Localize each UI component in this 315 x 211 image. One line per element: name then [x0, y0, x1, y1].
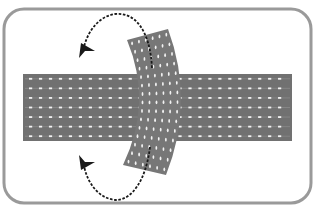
strip-dot [167, 128, 169, 132]
strip-dot [157, 55, 159, 59]
strip-dot [135, 161, 137, 165]
arrowhead-icon [79, 43, 95, 58]
strip-dot [155, 146, 157, 150]
band-dash [79, 116, 82, 118]
band-dash [119, 116, 122, 118]
band-dash [29, 107, 32, 109]
band-dash [188, 126, 191, 128]
strip-dot [156, 100, 158, 104]
band-dash [218, 87, 221, 89]
band-dash [188, 78, 191, 80]
band-dash [79, 87, 82, 89]
band-dash [79, 78, 82, 80]
band-dash [248, 87, 251, 89]
strip-dot [141, 84, 143, 88]
band-dash [258, 116, 261, 118]
band-dash [39, 78, 42, 80]
band-dash [99, 135, 102, 137]
band-dash [208, 126, 211, 128]
band-dash [49, 135, 52, 137]
strip-dot [155, 45, 157, 49]
band-dash [109, 78, 112, 80]
band-dash [188, 135, 191, 137]
strip-dot [137, 58, 139, 62]
strip-dot [148, 83, 150, 87]
strip-dot [139, 126, 141, 130]
strip-dot [142, 163, 144, 167]
strip-dot [147, 118, 149, 122]
strip-dot [170, 148, 172, 152]
band-dash [198, 107, 201, 109]
band-dash [89, 107, 92, 109]
band-dash [198, 87, 201, 89]
band-dash [228, 135, 231, 137]
band-dash [188, 107, 191, 109]
band-dash [208, 135, 211, 137]
band-dash [29, 116, 32, 118]
band-dash [188, 87, 191, 89]
strip-dot [170, 100, 172, 104]
strip-dot [146, 127, 148, 131]
strip-dot [162, 82, 164, 86]
band-dash [278, 97, 281, 99]
band-dash [258, 135, 261, 137]
strip-dot [173, 62, 175, 66]
diagram-svg [0, 0, 315, 211]
strip-dot [163, 91, 165, 95]
band-dash [109, 116, 112, 118]
band-dash [208, 107, 211, 109]
strip-dot [168, 119, 170, 123]
band-dash [99, 78, 102, 80]
strip-dot [170, 91, 172, 95]
band-dash [228, 97, 231, 99]
band-dash [238, 78, 241, 80]
band-dash [29, 78, 32, 80]
band-dash [238, 126, 241, 128]
band-dash [69, 97, 72, 99]
strip-dot [162, 44, 164, 48]
band-dash [89, 97, 92, 99]
strip-dot [137, 134, 139, 138]
band-dash [49, 97, 52, 99]
band-dash [69, 126, 72, 128]
band-dash [278, 135, 281, 137]
band-dash [69, 116, 72, 118]
band-dash [29, 87, 32, 89]
band-dash [228, 116, 231, 118]
band-dash [248, 126, 251, 128]
band-dash [208, 78, 211, 80]
strip-dot [159, 35, 161, 39]
band-dash [278, 78, 281, 80]
strip-dot [159, 64, 161, 68]
band-dash [129, 126, 132, 128]
band-dash [258, 78, 261, 80]
band-dash [99, 97, 102, 99]
band-dash [119, 126, 122, 128]
strip-dot [163, 167, 165, 171]
strip-dot [172, 139, 174, 143]
band-dash [129, 97, 132, 99]
band-dash [69, 78, 72, 80]
band-dash [228, 126, 231, 128]
diagram-canvas: Twisted strip crossing a band with rotat… [0, 0, 315, 211]
band-dash [188, 116, 191, 118]
band-dash [39, 107, 42, 109]
strip-dot [152, 36, 154, 40]
band-dash [49, 126, 52, 128]
strip-dot [161, 119, 163, 123]
band-dash [109, 126, 112, 128]
band-dash [228, 107, 231, 109]
band-dash [119, 97, 122, 99]
band-dash [238, 116, 241, 118]
band-dash [129, 87, 132, 89]
strip-dot [163, 147, 165, 151]
band-dash [198, 135, 201, 137]
band-dash [99, 107, 102, 109]
band-dash [69, 107, 72, 109]
strip-dot [165, 33, 167, 37]
strip-dot [161, 73, 163, 77]
band-dash [109, 135, 112, 137]
band-dash [258, 126, 261, 128]
strip-dot [160, 157, 162, 161]
band-dash [129, 135, 132, 137]
